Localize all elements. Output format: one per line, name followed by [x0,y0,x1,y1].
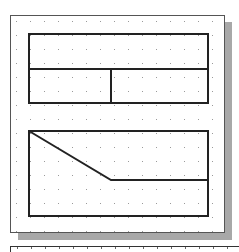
bottom-diagonal-edge [29,131,208,180]
ruler-tick [45,247,46,249]
ruler-tick [87,247,88,249]
ruler-tick [101,247,102,249]
ruler-tick [73,247,74,249]
grid-dots [16,21,213,232]
ruler-tick [59,247,60,249]
ruler-tick [31,247,32,249]
bottom-ruler [10,246,239,252]
ruler-tick [199,247,200,249]
ruler-tick [185,247,186,249]
ruler-tick [115,247,116,249]
ruler-tick [171,247,172,249]
ruler-tick [227,247,228,249]
ruler-tick [213,247,214,249]
drawing-canvas [0,0,239,252]
ruler-tick [143,247,144,249]
ruler-tick [157,247,158,249]
ruler-tick [129,247,130,249]
drawing-shapes [29,34,208,216]
ruler-tick [17,247,18,249]
bottom-rectangle [29,131,208,216]
